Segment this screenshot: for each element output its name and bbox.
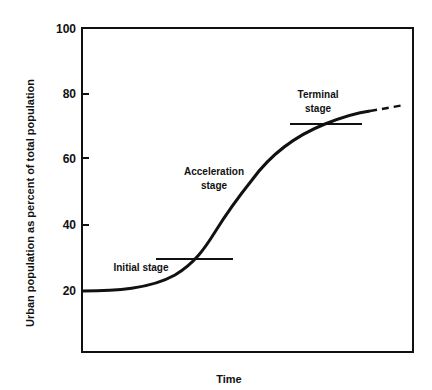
y-tick-80: 80 — [63, 87, 77, 101]
annotation-acceleration: Acceleration — [184, 166, 244, 177]
urbanization-chart: 100 80 60 40 20 Urban population as perc… — [0, 0, 432, 390]
y-axis-ticks — [82, 94, 89, 291]
y-tick-100: 100 — [56, 22, 76, 36]
plot-frame — [82, 28, 413, 352]
y-tick-20: 20 — [63, 284, 77, 298]
y-tick-40: 40 — [63, 218, 77, 232]
annotation-initial-stage: Initial stage — [113, 262, 168, 273]
y-tick-60: 60 — [63, 152, 77, 166]
annotation-terminal-stage: stage — [305, 103, 332, 114]
y-axis-label: Urban population as percent of total pop… — [24, 79, 36, 327]
annotation-terminal: Terminal — [298, 89, 339, 100]
x-axis-label: Time — [216, 373, 241, 385]
annotation-acceleration-stage: stage — [201, 180, 228, 191]
projected-extension — [370, 105, 404, 111]
